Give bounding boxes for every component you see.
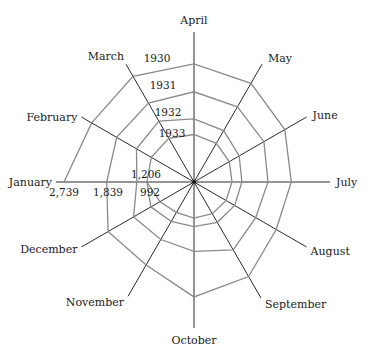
axis-label-february: February	[26, 111, 78, 124]
axis-september	[194, 182, 261, 298]
labels-group: JanuaryFebruaryMarchAprilMayJuneJulyAugu…	[8, 14, 358, 347]
series-label-1932: 1932	[155, 106, 182, 118]
january-value-label-1932: 1,206	[131, 168, 161, 180]
axis-label-june: June	[312, 109, 338, 122]
radar-chart: JanuaryFebruaryMarchAprilMayJuneJulyAugu…	[0, 0, 368, 354]
axis-label-january: January	[8, 176, 53, 189]
january-value-label-1933: 992	[140, 186, 160, 198]
axis-label-october: October	[171, 334, 217, 347]
axis-label-july: July	[335, 176, 358, 189]
series-group	[64, 64, 291, 297]
series-label-1930: 1930	[144, 52, 171, 64]
axis-label-august: August	[310, 245, 351, 258]
axis-label-december: December	[20, 243, 78, 256]
january-value-label-1931: 1,839	[93, 186, 123, 198]
axes-group	[56, 32, 330, 328]
series-label-1931: 1931	[150, 79, 177, 91]
axis-label-november: November	[66, 296, 125, 309]
january-value-label-1930: 2,739	[49, 186, 79, 198]
series-label-1933: 1933	[159, 127, 186, 139]
series-connector-1931-1932	[134, 182, 137, 217]
axis-label-may: May	[268, 52, 293, 65]
axis-label-september: September	[265, 298, 327, 311]
axis-label-april: April	[179, 14, 208, 27]
axis-label-march: March	[88, 50, 124, 63]
center-point	[192, 180, 196, 184]
series-line-1930	[64, 64, 291, 297]
